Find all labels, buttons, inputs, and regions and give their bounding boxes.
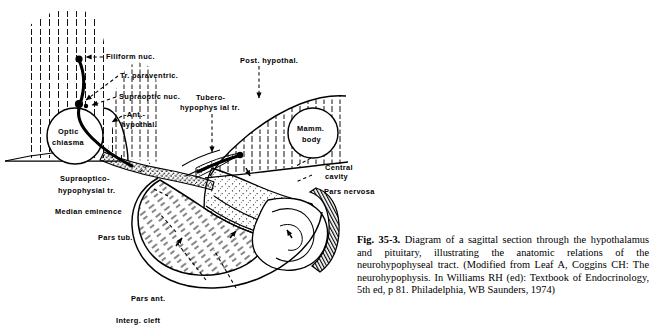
label-supraoptico-line1: Supraoptico- xyxy=(60,174,110,183)
supraoptic-nucleus-dot-2 xyxy=(84,104,88,108)
label-pars-tub: Pars tub. xyxy=(98,233,133,242)
label-supraoptic-nuc: Supraoptic nuc. xyxy=(119,92,180,101)
label-central-cavity-line1: Central xyxy=(325,163,353,172)
label-optic-chiasma-line2: chiasma xyxy=(52,138,84,147)
figure-caption-text: Diagram of a sagittal section through th… xyxy=(357,234,649,295)
label-filiform-nuc: Filiform nuc. xyxy=(106,52,155,61)
label-interg-cleft: Interg. cleft xyxy=(116,316,160,325)
supraoptic-nucleus-dot xyxy=(75,100,83,108)
label-mamm-body-line1: Mamm. xyxy=(297,124,324,133)
tuberal-nucleus-dot xyxy=(237,152,243,158)
label-supraoptico-line2: hypophysial tr. xyxy=(58,186,115,195)
filiform-nucleus-dot xyxy=(75,55,82,62)
label-tr-paraventric: Tr. paraventric. xyxy=(120,71,178,80)
label-central-cavity-line2: cavity xyxy=(325,172,348,181)
label-tubero-line2: hypophys ial tr. xyxy=(180,103,240,112)
label-ant-hypothal-line2: hypothal. xyxy=(121,120,157,129)
label-optic-chiasma-line1: Optic xyxy=(58,127,79,136)
label-pars-ant: Pars ant. xyxy=(131,294,165,303)
label-post-hypothal: Post. hypothal. xyxy=(240,56,298,65)
label-mamm-body-line2: body xyxy=(302,135,321,144)
label-ant-hypothal-line1: -Ant.- xyxy=(124,110,145,119)
leader-pars-nervosa xyxy=(296,175,312,182)
figure-number: Fig. 35-3. xyxy=(357,234,400,245)
label-pars-nervosa: Pars nervosa xyxy=(324,187,375,196)
label-tubero-line1: Tubero- xyxy=(196,93,225,102)
label-median-eminence: Median eminence xyxy=(55,207,122,216)
figure-caption: Fig. 35-3. Diagram of a sagittal section… xyxy=(357,234,649,297)
